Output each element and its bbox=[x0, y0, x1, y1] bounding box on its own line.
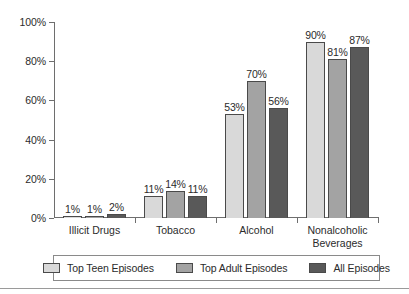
bar-group-tobacco: 11% 14% 11% Tobacco bbox=[135, 22, 216, 218]
bar-value-label: 2% bbox=[109, 201, 124, 213]
x-axis-label-alcohol: Alcohol bbox=[216, 224, 297, 237]
bar-top-adult-episodes[interactable] bbox=[328, 59, 347, 218]
bar-group-bars: 90% 81% 87% bbox=[297, 22, 378, 218]
bar-value-label: 70% bbox=[246, 68, 266, 80]
legend-item-label: Top Teen Episodes bbox=[67, 262, 154, 274]
y-tick-label: 100% bbox=[20, 16, 46, 28]
x-axis-label-illicit-drugs: Illicit Drugs bbox=[54, 224, 135, 237]
bar-column: 87% bbox=[350, 22, 369, 218]
y-tick-label: 60% bbox=[25, 94, 46, 106]
bar-group-alcohol: 53% 70% 56% Alcohol bbox=[216, 22, 297, 218]
legend-item-label: Top Adult Episodes bbox=[200, 262, 288, 274]
y-tick-label: 0% bbox=[31, 212, 46, 224]
bar-all-episodes[interactable] bbox=[350, 47, 369, 218]
legend-swatch-icon bbox=[43, 263, 60, 273]
y-tick-mark bbox=[49, 218, 54, 219]
bar-value-label: 87% bbox=[349, 34, 369, 46]
legend-item-top-adult-episodes[interactable]: Top Adult Episodes bbox=[176, 262, 288, 274]
bar-column: 53% bbox=[225, 22, 244, 218]
bar-all-episodes[interactable] bbox=[188, 196, 207, 218]
bar-all-episodes[interactable] bbox=[107, 214, 126, 218]
bar-top-adult-episodes[interactable] bbox=[247, 81, 266, 218]
x-tick-mark bbox=[135, 218, 136, 223]
x-axis-label-nonalcoholic-beverages: Nonalcoholic Beverages bbox=[297, 224, 378, 249]
legend-item-all-episodes[interactable]: All Episodes bbox=[309, 262, 390, 274]
bar-column: 70% bbox=[247, 22, 266, 218]
bar-all-episodes[interactable] bbox=[269, 108, 288, 218]
legend-item-top-teen-episodes[interactable]: Top Teen Episodes bbox=[43, 262, 154, 274]
bar-top-adult-episodes[interactable] bbox=[85, 216, 104, 218]
page-divider bbox=[0, 288, 409, 289]
legend-item-label: All Episodes bbox=[333, 262, 390, 274]
bar-top-teen-episodes[interactable] bbox=[225, 114, 244, 218]
x-tick-mark bbox=[297, 218, 298, 223]
bar-top-adult-episodes[interactable] bbox=[166, 191, 185, 218]
bar-top-teen-episodes[interactable] bbox=[306, 42, 325, 218]
legend-swatch-icon bbox=[309, 263, 326, 273]
x-tick-mark bbox=[378, 218, 379, 223]
bar-value-label: 1% bbox=[65, 203, 80, 215]
bar-value-label: 14% bbox=[165, 178, 185, 190]
bar-column: 11% bbox=[188, 22, 207, 218]
bar-column: 90% bbox=[306, 22, 325, 218]
bar-chart-figure: 100% 80% 60% 40% 20% 0% bbox=[0, 0, 409, 294]
y-tick-label: 80% bbox=[25, 55, 46, 67]
bar-value-label: 81% bbox=[327, 46, 347, 58]
bar-group-bars: 1% 1% 2% bbox=[54, 22, 135, 218]
bar-column: 1% bbox=[63, 22, 82, 218]
y-tick-label: 20% bbox=[25, 173, 46, 185]
plot-area: 100% 80% 60% 40% 20% 0% bbox=[54, 22, 379, 218]
x-tick-mark bbox=[216, 218, 217, 223]
bar-value-label: 11% bbox=[144, 183, 164, 195]
y-tick-label: 40% bbox=[25, 134, 46, 146]
bar-value-label: 90% bbox=[305, 29, 325, 41]
bar-column: 2% bbox=[107, 22, 126, 218]
bar-top-teen-episodes[interactable] bbox=[63, 216, 82, 218]
bar-column: 1% bbox=[85, 22, 104, 218]
bar-column: 11% bbox=[144, 22, 163, 218]
bar-group-bars: 53% 70% 56% bbox=[216, 22, 297, 218]
bar-column: 14% bbox=[166, 22, 185, 218]
bar-value-label: 1% bbox=[87, 203, 102, 215]
bar-column: 56% bbox=[269, 22, 288, 218]
bar-value-label: 56% bbox=[268, 95, 288, 107]
bar-group-bars: 11% 14% 11% bbox=[135, 22, 216, 218]
bar-top-teen-episodes[interactable] bbox=[144, 196, 163, 218]
legend-swatch-icon bbox=[176, 263, 193, 273]
bar-value-label: 11% bbox=[188, 183, 208, 195]
bar-value-label: 53% bbox=[224, 101, 244, 113]
bar-group-illicit-drugs: 1% 1% 2% Illicit Drugs bbox=[54, 22, 135, 218]
x-axis-label-tobacco: Tobacco bbox=[135, 224, 216, 237]
chart-legend: Top Teen Episodes Top Adult Episodes All… bbox=[53, 255, 380, 281]
bar-column: 81% bbox=[328, 22, 347, 218]
bar-group-nonalcoholic-beverages: 90% 81% 87% Nonalcoholic Beverages bbox=[297, 22, 378, 218]
